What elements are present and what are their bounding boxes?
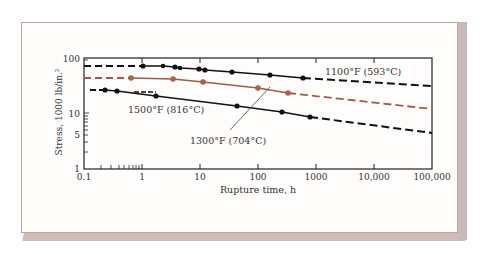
x-tick-label: 10 [194, 172, 206, 182]
y-minor-ticks [84, 60, 89, 152]
leader-line-1300F [230, 87, 270, 130]
creep-rupture-chart: 0.1 1 10 100 1000 10,000 100,000 100 10 … [0, 0, 490, 254]
x-tick-label: 1000 [305, 172, 328, 182]
y-tick-label: 100 [63, 54, 80, 64]
x-tick-label: 1 [139, 172, 145, 182]
x-tick-label: 100 [249, 172, 266, 182]
label-1100F: 1100°F (593°C) [325, 66, 401, 77]
label-1500F: 1500°F (816°C) [128, 104, 204, 115]
y-tick-label: 10 [69, 109, 81, 119]
x-tick-label: 10,000 [358, 172, 390, 182]
y-tick-label: 1 [74, 164, 80, 174]
y-tick-label: 5 [74, 130, 80, 140]
x-axis-title: Rupture time, h [220, 184, 296, 195]
x-tick-label: 100,000 [413, 172, 450, 182]
label-1300F: 1300°F (704°C) [190, 135, 266, 146]
y-axis-title: Stress, 1000 lb/in.² [54, 68, 64, 155]
x-minor-ticks [101, 165, 139, 169]
